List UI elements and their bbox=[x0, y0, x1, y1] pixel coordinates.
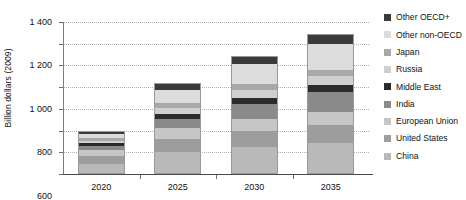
bar-segment bbox=[307, 34, 354, 44]
x-tick-label: 2025 bbox=[168, 182, 188, 192]
legend-label: India bbox=[396, 100, 415, 109]
y-tick-mark: 1 200 bbox=[59, 44, 63, 45]
y-tick-label: 1 000 bbox=[29, 104, 52, 114]
x-tick-mark bbox=[140, 175, 141, 179]
y-tick-mark: 200 bbox=[59, 152, 63, 153]
legend-swatch bbox=[384, 14, 391, 21]
legend-swatch bbox=[384, 153, 391, 160]
legend-item[interactable]: Japan bbox=[384, 44, 466, 61]
legend: Other OECD+Other non-OECDJapanRussiaMidd… bbox=[384, 9, 466, 165]
bar-2035 bbox=[307, 34, 354, 174]
legend-item[interactable]: United States bbox=[384, 130, 466, 147]
bar-segment bbox=[307, 125, 354, 143]
y-axis-line bbox=[63, 22, 64, 174]
legend-item[interactable]: European Union bbox=[384, 113, 466, 130]
bar-segment bbox=[154, 90, 201, 102]
x-tick-mark bbox=[216, 175, 217, 179]
legend-swatch bbox=[384, 49, 391, 56]
plot-area: 02004006008001 0001 2001 400 20202025203… bbox=[63, 22, 369, 174]
y-axis-title: Billion dollars (2009) bbox=[0, 0, 16, 175]
x-tick-label: 2030 bbox=[244, 182, 264, 192]
bar-segment bbox=[307, 85, 354, 92]
legend-item[interactable]: Other non-OECD bbox=[384, 26, 466, 43]
x-tick-label: 2020 bbox=[91, 182, 111, 192]
legend-label: Japan bbox=[396, 48, 419, 57]
legend-swatch bbox=[384, 118, 391, 125]
bar-segment bbox=[231, 119, 278, 131]
bar-segment bbox=[154, 152, 201, 174]
legend-item[interactable]: Other OECD+ bbox=[384, 9, 466, 26]
bar-segment bbox=[154, 139, 201, 152]
legend-item[interactable]: Russia bbox=[384, 61, 466, 78]
bar-segment bbox=[307, 112, 354, 126]
y-axis-title-text: Billion dollars (2009) bbox=[3, 48, 13, 127]
bar-segment bbox=[231, 131, 278, 147]
y-tick-mark: 1 000 bbox=[59, 65, 63, 66]
legend-label: Other OECD+ bbox=[396, 13, 450, 22]
x-tick-label: 2035 bbox=[321, 182, 341, 192]
y-tick-label: 800 bbox=[37, 147, 52, 157]
legend-label: Middle East bbox=[396, 83, 441, 92]
legend-label: Russia bbox=[396, 65, 422, 74]
legend-item[interactable]: China bbox=[384, 147, 466, 164]
bar-segment bbox=[231, 64, 278, 84]
y-tick-mark: 0 bbox=[59, 174, 63, 175]
bar-2030 bbox=[231, 56, 278, 174]
y-tick-label: 1 200 bbox=[29, 60, 52, 70]
legend-item[interactable]: India bbox=[384, 95, 466, 112]
bar-segment bbox=[231, 56, 278, 65]
stacked-bar-chart: Billion dollars (2009) 02004006008001 00… bbox=[0, 0, 466, 200]
bar-segment bbox=[154, 119, 201, 129]
y-tick-label: 1 400 bbox=[29, 17, 52, 27]
bar-segment bbox=[231, 90, 278, 98]
legend-label: Other non-OECD bbox=[396, 31, 462, 40]
legend-swatch bbox=[384, 66, 391, 73]
bar-2025 bbox=[154, 83, 201, 174]
legend-label: United States bbox=[396, 134, 448, 143]
legend-swatch bbox=[384, 101, 391, 108]
bar-segment bbox=[307, 44, 354, 70]
x-tick-mark bbox=[293, 175, 294, 179]
legend-swatch bbox=[384, 31, 391, 38]
legend-item[interactable]: Middle East bbox=[384, 78, 466, 95]
bar-segment bbox=[307, 76, 354, 85]
legend-label: China bbox=[396, 152, 418, 161]
gridline bbox=[64, 22, 369, 23]
y-tick-mark: 600 bbox=[59, 109, 63, 110]
y-tick-mark: 400 bbox=[59, 131, 63, 132]
y-tick-mark: 1 400 bbox=[59, 22, 63, 23]
bar-segment bbox=[154, 83, 201, 90]
bar-segment bbox=[78, 164, 125, 174]
legend-swatch bbox=[384, 135, 391, 142]
legend-label: European Union bbox=[396, 117, 458, 126]
bar-segment bbox=[307, 92, 354, 112]
bar-2020 bbox=[78, 131, 125, 174]
bar-segment bbox=[78, 156, 125, 164]
bar-segment bbox=[154, 128, 201, 138]
bar-segment bbox=[307, 143, 354, 174]
bar-segment bbox=[231, 104, 278, 119]
y-tick-mark: 800 bbox=[59, 87, 63, 88]
bar-segment bbox=[231, 147, 278, 174]
legend-swatch bbox=[384, 83, 391, 90]
y-tick-label: 600 bbox=[37, 191, 52, 200]
